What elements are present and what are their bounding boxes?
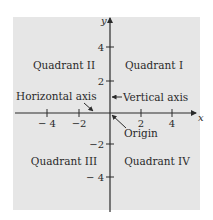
origin-annotation: Origin [124,127,158,139]
x-tick-label: − 4 [38,118,56,129]
quadrant-1-label: Quadrant I [125,59,183,71]
quadrant-4-label: Quadrant IV [124,155,190,167]
x-tick-label: 4 [169,118,175,129]
vertical-axis-annotation: Vertical axis [122,91,188,103]
x-tick-label: −2 [72,118,87,129]
quadrant-3-label: Quadrant III [31,155,97,167]
x-axis-label: x [198,112,204,123]
y-tick-label: 2 [98,76,104,87]
quadrant-2-label: Quadrant II [33,59,95,71]
y-tick-label: − 4 [86,172,104,183]
y-tick-label: 4 [98,42,104,53]
coordinate-plane-diagram: − 4 −2 2 4 4 2 −2 − 4 x y Quadrant II Qu… [0,0,213,220]
y-tick-label: −2 [89,139,104,150]
horizontal-axis-annotation: Horizontal axis [16,90,97,102]
y-axis-label: y [100,15,107,26]
coordinate-plane-svg: − 4 −2 2 4 4 2 −2 − 4 x y Quadrant II Qu… [0,0,213,220]
